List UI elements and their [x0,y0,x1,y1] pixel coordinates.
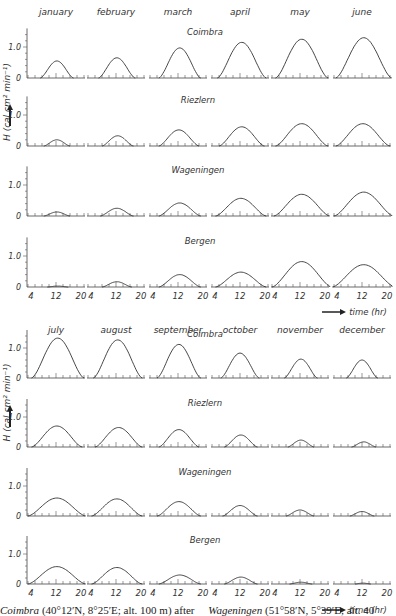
x-tick-label-20: 20 [76,291,87,301]
radiation-curve [159,130,199,146]
radiation-curve [159,430,199,447]
radiation-curve [159,203,201,216]
radiation-curve [102,282,132,287]
radiation-curve [93,340,142,378]
radiation-curve [336,38,392,78]
panel-riezlern-september [149,430,207,447]
y-tick-label-1: 1.0 [8,550,21,559]
panel-bergen-november [271,579,329,584]
panel-coimbra-february [87,58,145,78]
y-tick-label-0: 0 [16,212,21,221]
radiation-curve [274,194,330,216]
panel-riezlern-july [27,426,85,447]
x-tick-label-4: 4 [272,588,277,598]
x-tick-label-12: 12 [173,291,184,301]
top-half-jan-jun: januaryfebruarymarchaprilmayjuneH (cal c… [2,7,392,317]
radiation-curve [224,577,257,584]
y-tick-label-0: 0 [16,74,21,83]
x-tick-label-20: 20 [260,291,271,301]
x-tick-label-12: 12 [357,291,368,301]
x-tick-label-20: 20 [136,588,147,598]
panel-bergen-april [211,272,269,287]
x-tick-label-12: 12 [235,291,246,301]
radiation-curve [44,212,70,216]
panel-wageningen-december [333,511,391,516]
month-label-october: october [223,325,259,335]
station-label-wageningen: Wageningen [179,467,232,477]
panel-wageningen-july [27,498,86,516]
x-tick-label-12: 12 [295,291,306,301]
y-tick-label-0: 0 [16,374,21,383]
figure-caption: Coimbra (40°12′N, 8°25′E; alt. 100 m) af… [0,604,396,616]
y-axis-title: H (cal cm² min⁻¹) [2,364,12,442]
panel-wageningen-march [149,203,207,216]
panel-coimbra-july [27,338,85,378]
radiation-curve [224,435,257,447]
radiation-curve [32,426,83,447]
month-label-july: july [46,325,65,335]
panel-bergen-february [87,282,145,287]
month-label-april: april [230,7,250,17]
panel-riezlern-november [271,440,329,447]
y-tick-label-1: 1.0 [8,252,21,261]
caption-station-left: Coimbra [0,604,39,616]
panel-wageningen-may [271,194,330,216]
panel-riezlern-february [87,136,145,146]
station-label-riezlern: Riezlern [188,398,222,408]
panel-riezlern-december [333,442,391,447]
month-label-march: march [164,7,193,17]
panel-coimbra-april [211,42,269,78]
row-wageningen: Wageningen1.00 [8,467,391,522]
y-tick-label-0: 0 [16,580,21,589]
panel-wageningen-february [87,208,145,216]
x-tick-label-4: 4 [334,291,339,301]
x-tick-label-12: 12 [111,291,122,301]
radiation-curve [336,124,390,146]
radiation-curve [288,440,314,447]
radiation-curve [272,262,330,287]
caption-text-left: (40°12′N, 8°25′E; alt. 100 m) after [39,604,194,616]
radiation-curve [159,275,201,287]
row-riezlern: Riezlern1.00 [8,95,391,151]
month-label-december: december [339,325,386,335]
bottom-half-jul-dec: julyaugustseptemberoctobernovemberdecemb… [2,325,392,614]
row-bergen: Bergen1.00 [8,535,391,590]
radiation-curve [217,42,266,78]
radiation-curve [157,502,201,516]
radiation-curve [44,140,70,146]
panel-riezlern-may [271,124,329,146]
x-tick-label-20: 20 [260,588,271,598]
radiation-curve [157,344,201,378]
radiation-curve [32,338,85,378]
panel-coimbra-august [87,340,145,378]
panel-wageningen-september [149,502,207,516]
y-tick-label-0: 0 [16,142,21,151]
radiation-curve [284,359,317,378]
y-tick-label-1: 1.0 [8,482,21,491]
radiation-curve [216,272,267,287]
radiation-curve [92,499,143,516]
panel-wageningen-november [271,510,329,516]
radiation-curve [216,198,267,216]
panel-wageningen-june [333,192,392,216]
panel-riezlern-june [333,124,391,146]
panel-riezlern-august [87,428,145,448]
y-tick-label-1: 1.0 [8,181,21,190]
station-label-wageningen: Wageningen [172,165,225,175]
panel-bergen-july [27,567,86,584]
panel-bergen-june [332,265,392,287]
station-label-coimbra: Coimbra [187,329,223,339]
month-label-january: january [37,7,74,17]
panel-bergen-august [87,568,145,585]
panel-bergen-december [333,579,391,584]
station-label-coimbra: Coimbra [187,27,223,37]
x-axis-title: time (hr) [349,307,386,317]
panel-riezlern-april [211,127,269,146]
row-wageningen: Wageningen1.00 [8,165,392,221]
caption-station-right: Wageningen [208,604,262,616]
panel-riezlern-march [149,130,207,146]
x-tick-label-4: 4 [88,291,93,301]
row-riezlern: Riezlern1.00 [8,398,391,453]
x-tick-label-4: 4 [88,588,93,598]
radiation-curve [276,39,329,78]
